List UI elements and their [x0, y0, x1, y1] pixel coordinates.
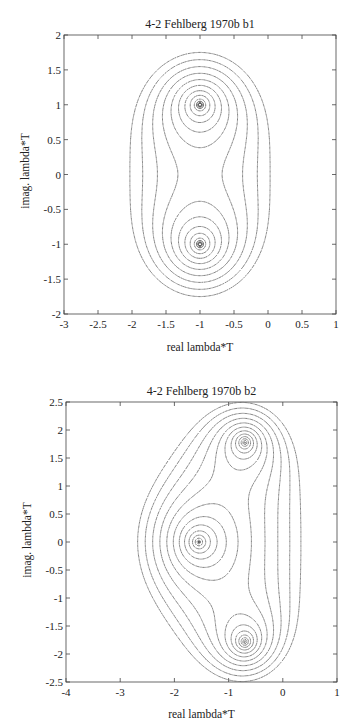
contour-dotted: [185, 434, 254, 650]
y-axis-label: imag. lambda*T: [21, 485, 33, 595]
contour-dotted: [195, 440, 247, 644]
y-tick-label: 2: [58, 424, 64, 436]
plot-frame: [66, 402, 337, 682]
y-tick-label: -2.5: [46, 676, 64, 688]
x-tick-label: -3: [116, 686, 126, 698]
y-tick-label: -1.5: [46, 620, 64, 632]
x-tick-label: 0: [280, 686, 286, 698]
contour-dotted: [138, 402, 301, 681]
y-tick-label: 0.5: [49, 508, 63, 520]
contour-lines: [138, 402, 301, 681]
y-tick-label: 1: [58, 480, 64, 492]
y-tick-label: 0: [58, 536, 64, 548]
x-tick-label: -1: [224, 686, 233, 698]
chart-b2: 4-2 Fehlberg 1970b b2 -4-3-2-101-2.5-2-1…: [0, 0, 359, 728]
x-tick-label: -2: [170, 686, 179, 698]
y-tick-label: -2: [54, 648, 63, 660]
y-tick-label: -0.5: [46, 564, 64, 576]
contour-dotted: [179, 431, 257, 653]
y-tick-label: 2.5: [49, 396, 63, 408]
x-axis-label: real lambda*T: [66, 708, 337, 720]
plot-area: -4-3-2-101-2.5-2-1.5-1-0.500.511.522.5: [0, 0, 359, 728]
y-tick-label: 1.5: [49, 452, 63, 464]
contour-dotted: [197, 441, 246, 642]
x-tick-label: 1: [334, 686, 340, 698]
y-tick-label: -1: [54, 592, 63, 604]
